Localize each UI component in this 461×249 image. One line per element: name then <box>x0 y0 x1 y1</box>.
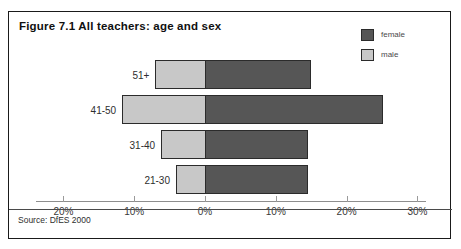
category-label-41-50: 41-50 <box>9 104 116 115</box>
x-axis-line <box>36 201 426 202</box>
bar-male-51+ <box>155 60 206 89</box>
category-label-21-30: 21-30 <box>9 174 170 185</box>
category-label-51+: 51+ <box>9 69 149 80</box>
figure-panel: Figure 7.1 All teachers: age and sex fem… <box>8 11 451 239</box>
x-axis-tick-label: 10% <box>266 206 286 217</box>
source-divider <box>9 209 452 210</box>
x-axis-tick-label: 0% <box>198 206 212 217</box>
x-axis-tick <box>276 196 277 202</box>
x-axis-tick <box>205 196 206 202</box>
bar-female-31-40 <box>205 130 308 159</box>
bar-male-31-40 <box>161 130 206 159</box>
source-note: Source: DfES 2000 <box>18 215 91 225</box>
x-axis-tick <box>347 196 348 202</box>
bar-male-21-30 <box>176 165 206 194</box>
x-axis-tick-label: 10% <box>124 206 144 217</box>
figure-title: Figure 7.1 All teachers: age and sex <box>19 20 221 32</box>
chart-plot-area: 20%10%0%10%20%30% 51+41-5031-4021-30 <box>9 38 452 204</box>
bar-male-41-50 <box>122 95 206 124</box>
x-axis-tick <box>134 196 135 202</box>
bar-female-41-50 <box>205 95 383 124</box>
x-axis-tick <box>417 196 418 202</box>
bar-female-21-30 <box>205 165 308 194</box>
x-axis-tick-label: 20% <box>337 206 357 217</box>
category-label-31-40: 31-40 <box>9 139 155 150</box>
x-axis-tick <box>63 196 64 202</box>
bar-female-51+ <box>205 60 311 89</box>
x-axis-tick-label: 30% <box>407 206 427 217</box>
